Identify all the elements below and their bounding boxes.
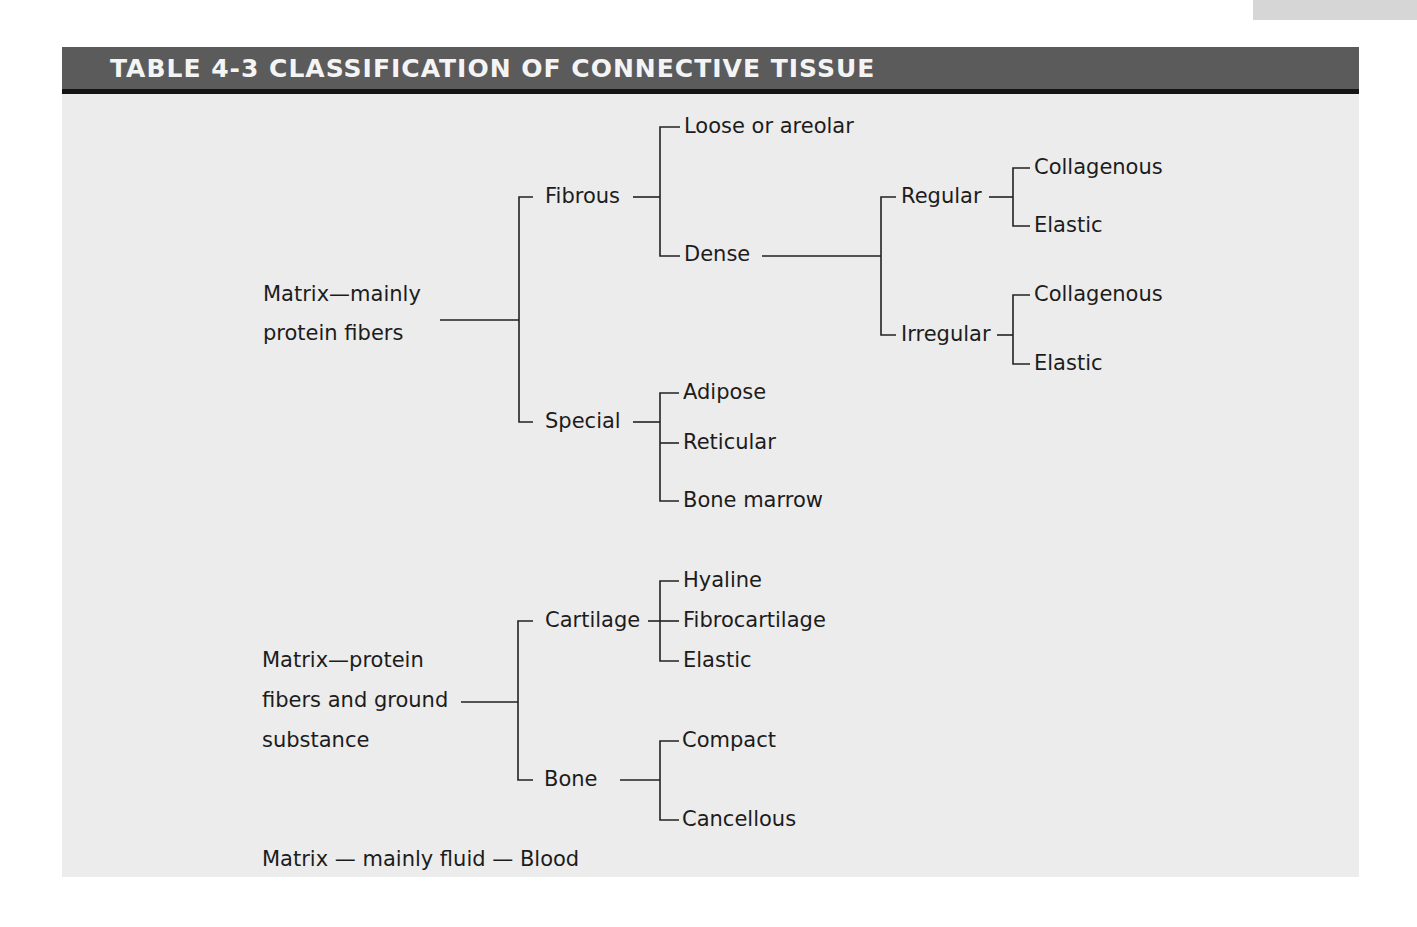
node-adipose: Adipose <box>683 380 766 404</box>
node-bone: Bone <box>544 767 597 791</box>
node-dense: Dense <box>684 242 750 266</box>
node-compact: Compact <box>682 728 776 752</box>
node-hyaline: Hyaline <box>683 568 762 592</box>
root-label-ground-substance-line2: fibers and ground <box>262 688 448 712</box>
root-label-protein-fibers-line1: Matrix—mainly <box>263 282 421 306</box>
node-reticular: Reticular <box>683 430 776 454</box>
node-irregular-collagenous: Collagenous <box>1034 282 1163 306</box>
node-bone-marrow: Bone marrow <box>683 488 823 512</box>
node-cartilage-elastic: Elastic <box>683 648 752 672</box>
node-fibrous: Fibrous <box>545 184 620 208</box>
root-label-protein-fibers-line2: protein fibers <box>263 321 403 345</box>
node-loose-or-areolar: Loose or areolar <box>684 114 854 138</box>
node-irregular-elastic: Elastic <box>1034 351 1103 375</box>
node-cancellous: Cancellous <box>682 807 796 831</box>
node-regular: Regular <box>901 184 982 208</box>
node-irregular: Irregular <box>901 322 991 346</box>
node-cartilage: Cartilage <box>545 608 640 632</box>
tree-connector-lines <box>0 0 1417 927</box>
node-regular-elastic: Elastic <box>1034 213 1103 237</box>
blood-classification-line: Matrix — mainly fluid — Blood <box>262 847 579 871</box>
node-fibrocartilage: Fibrocartilage <box>683 608 826 632</box>
root-label-ground-substance-line3: substance <box>262 728 369 752</box>
node-special: Special <box>545 409 621 433</box>
node-regular-collagenous: Collagenous <box>1034 155 1163 179</box>
root-label-ground-substance-line1: Matrix—protein <box>262 648 424 672</box>
